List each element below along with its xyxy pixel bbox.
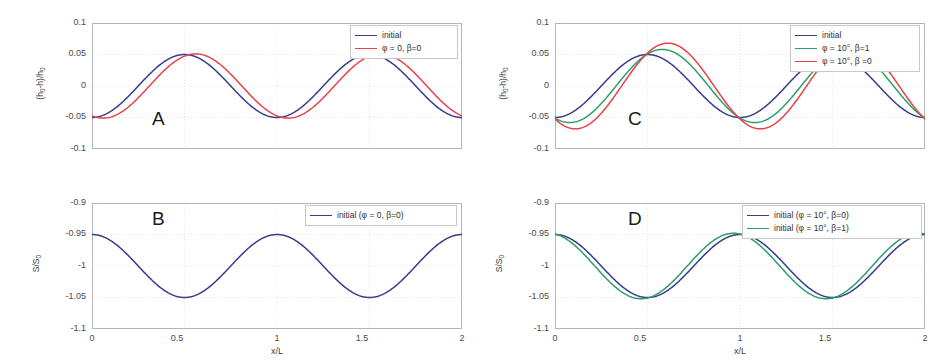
panel-b-letter: B [152,208,165,230]
panel-a-ylabel: (h0-h)/h0 [35,42,46,126]
panel-a-ytick: 0 [48,80,86,90]
legend-label: initial [382,30,401,41]
legend-item: φ = 10°, β =0 [795,55,914,68]
legend-item: initial [355,29,452,42]
panel-b-xtick: 2 [448,333,476,343]
panel-b-ytick: -0.9 [44,197,86,207]
panel-b-xtick: 0.5 [163,333,191,343]
panel-d-letter: D [628,208,642,230]
panel-d-xtick: 2 [911,333,939,343]
panel-d-xtick: 1 [726,333,754,343]
legend-swatch-phi10-beta1 [747,228,769,229]
panel-b-legend: initial (φ = 0, β=0) [305,205,457,226]
panel-d-xlabel: x/L [721,346,759,356]
panel-b-xtick: 1.5 [348,333,376,343]
panel-d-ylabel: S/S0 [494,234,505,294]
panel-b-ytick: -1.1 [44,323,86,333]
panel-c-ytick: 0 [511,80,549,90]
panel-d-ytick: -1 [507,260,549,270]
legend-swatch-initial [355,35,377,36]
legend-item: initial (φ = 10°, β=1) [747,222,916,235]
panel-a-ytick: -0.1 [48,143,86,153]
figure-canvas: A (h0-h)/h0 initial φ = 0, β=0 0.1 0.05 … [0,0,952,363]
legend-label: initial (φ = 10°, β=1) [774,223,849,234]
legend-label: φ = 0, β=0 [382,43,421,54]
panel-b-ytick: -0.95 [44,228,86,238]
panel-c-ytick: 0.1 [511,17,549,27]
panel-d-xtick: 1.5 [811,333,839,343]
legend-item: initial (φ = 10°, β=0) [747,209,916,222]
legend-item: initial [795,29,914,42]
legend-label: initial (φ = 0, β=0) [337,210,404,221]
panel-d-xtick: 0 [541,333,569,343]
panel-a-ytick: 0.05 [48,48,86,58]
panel-d-ytick: -0.9 [507,197,549,207]
legend-label: initial (φ = 10°, β=0) [774,210,849,221]
legend-label: φ = 10°, β =0 [822,56,872,67]
legend-swatch-phi10-beta1 [795,48,817,49]
panel-c-ytick: -0.1 [511,143,549,153]
panel-c-ytick: -0.05 [511,111,549,121]
panel-a-letter: A [152,108,165,130]
panel-d-legend: initial (φ = 10°, β=0) initial (φ = 10°,… [742,205,922,239]
panel-a-ytick: -0.05 [48,111,86,121]
legend-item: φ = 10°, β=1 [795,42,914,55]
panel-d-ytick: -0.95 [507,228,549,238]
panel-b-xtick: 1 [263,333,291,343]
panel-c-ylabel: (h0-h)/h0 [498,42,509,126]
panel-d-ytick: -1.05 [507,291,549,301]
panel-a-ytick: 0.1 [48,17,86,27]
legend-item: φ = 0, β=0 [355,42,452,55]
panel-a-legend: initial φ = 0, β=0 [350,25,458,59]
legend-swatch-phi0-beta0 [355,48,377,49]
legend-item: initial (φ = 0, β=0) [310,209,451,222]
panel-c-ytick: 0.05 [511,48,549,58]
panel-b-ytick: -1 [44,260,86,270]
legend-label: initial [822,30,841,41]
legend-label: φ = 10°, β=1 [822,43,869,54]
panel-b-ylabel: S/S0 [31,234,42,294]
panel-d-ytick: -1.1 [507,323,549,333]
legend-swatch-initial [795,35,817,36]
panel-b-xlabel: x/L [258,346,296,356]
panel-c-letter: C [628,108,642,130]
legend-swatch-phi10-beta0 [747,215,769,216]
legend-swatch-initial [310,215,332,216]
panel-b-xtick: 0 [78,333,106,343]
legend-swatch-phi10-beta0 [795,61,817,62]
panel-c-legend: initial φ = 10°, β=1 φ = 10°, β =0 [790,25,920,72]
panel-b-ytick: -1.05 [44,291,86,301]
panel-d-xtick: 0.5 [626,333,654,343]
